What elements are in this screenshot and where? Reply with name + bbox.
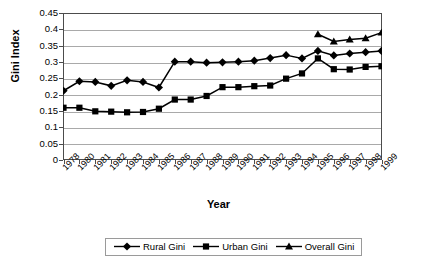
data-point: [283, 76, 289, 82]
series-triangle: [314, 29, 382, 45]
legend-label: Rural Gini: [143, 241, 185, 252]
y-axis-tick-label: 0.25: [16, 73, 58, 82]
chart-legend: Rural GiniUrban GiniOverall Gini: [105, 238, 362, 256]
y-axis-tick-label: 0.3: [16, 57, 58, 66]
legend-marker-diamond-icon: [113, 241, 141, 252]
legend-item: Overall Gini: [275, 241, 355, 252]
data-point: [330, 51, 338, 59]
data-point: [107, 82, 115, 90]
data-point: [266, 54, 274, 62]
y-axis-tick-label: 0.1: [16, 122, 58, 131]
data-point: [378, 29, 383, 36]
data-point: [331, 66, 337, 72]
y-axis-tick-label: 0: [16, 155, 58, 164]
y-axis-tick-mark: [59, 160, 63, 161]
data-point: [204, 93, 210, 99]
data-point: [234, 58, 242, 66]
data-point: [251, 83, 257, 89]
data-point: [235, 84, 241, 90]
data-point: [314, 47, 322, 55]
data-point: [314, 30, 322, 37]
y-axis-tick-label: 0.45: [16, 8, 58, 17]
data-point: [188, 96, 194, 102]
data-point: [219, 84, 225, 90]
legend-item: Rural Gini: [113, 241, 185, 252]
data-point: [267, 82, 273, 88]
data-point: [156, 106, 162, 112]
legend-item: Urban Gini: [192, 241, 267, 252]
data-series-layer: [63, 13, 382, 160]
gini-index-line-chart: Gini Index 0.450.40.350.30.250.20.150.10…: [0, 0, 437, 267]
data-point: [315, 55, 321, 61]
data-point: [203, 59, 211, 67]
y-axis-tick-label: 0.15: [16, 106, 58, 115]
y-axis-tick-label: 0.05: [16, 139, 58, 148]
data-point: [363, 64, 369, 70]
y-axis-tick-label: 0.2: [16, 90, 58, 99]
data-point: [282, 51, 290, 59]
data-point: [362, 48, 370, 56]
data-point: [299, 70, 305, 76]
data-point: [346, 49, 354, 57]
y-axis-tick-label: 0.4: [16, 24, 58, 33]
data-point: [298, 54, 306, 62]
data-point: [187, 58, 195, 66]
data-point: [123, 76, 131, 84]
legend-label: Urban Gini: [222, 241, 267, 252]
legend-label: Overall Gini: [305, 241, 355, 252]
y-axis-tick-label: 0.35: [16, 41, 58, 50]
data-point: [172, 96, 178, 102]
data-point: [63, 105, 67, 111]
data-point: [377, 47, 382, 55]
data-point: [171, 58, 179, 66]
data-point: [155, 83, 163, 91]
data-point: [347, 66, 353, 72]
legend-marker-triangle-icon: [275, 241, 303, 252]
data-point: [250, 57, 258, 65]
data-point: [108, 109, 114, 115]
data-point: [75, 77, 83, 85]
data-point: [76, 105, 82, 111]
data-point: [92, 108, 98, 114]
data-point: [140, 109, 146, 115]
data-point: [91, 78, 99, 86]
data-point: [218, 58, 226, 66]
data-point: [378, 63, 382, 69]
data-point: [124, 109, 130, 115]
data-point: [139, 78, 147, 86]
legend-marker-square-icon: [192, 241, 220, 252]
x-axis-title: Year: [0, 198, 437, 210]
